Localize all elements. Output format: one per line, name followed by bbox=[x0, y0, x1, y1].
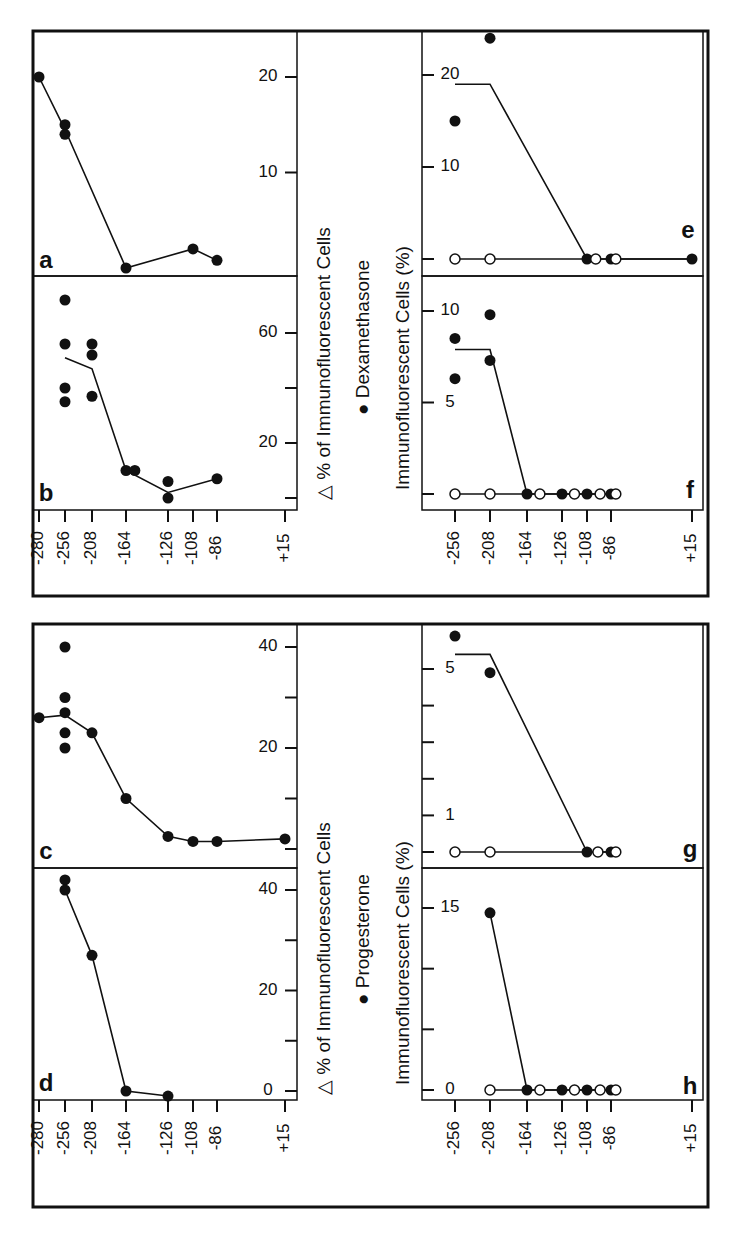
panel-h-box bbox=[422, 868, 703, 1100]
data-point-f bbox=[450, 333, 461, 344]
data-point-d bbox=[121, 1086, 132, 1097]
x-axis-left-top-label: +15 bbox=[274, 534, 293, 563]
x-axis-right-bottom-label: -208 bbox=[479, 1121, 498, 1155]
panel-label-h: h bbox=[683, 1072, 698, 1099]
x-axis-right-top-label: -256 bbox=[444, 531, 463, 565]
data-point-c bbox=[60, 642, 71, 653]
data-point-b bbox=[87, 339, 98, 350]
control-point-g bbox=[593, 847, 603, 857]
data-point-b bbox=[129, 465, 140, 476]
series-line-g bbox=[455, 654, 616, 852]
panel-label-d: d bbox=[39, 1069, 54, 1096]
series-line-e bbox=[455, 84, 692, 259]
x-axis-left-bottom-label: -256 bbox=[54, 1121, 73, 1155]
right-axis-title-bottom: Immunofluorescent Cells (%) bbox=[392, 841, 414, 1085]
x-axis-right-top-label: +15 bbox=[681, 534, 700, 563]
x-axis-right-bottom-label: -86 bbox=[600, 1126, 619, 1151]
figure-canvas: abcdefgh10202060204002040102051015015-28… bbox=[0, 0, 736, 1236]
data-point-c bbox=[163, 831, 174, 842]
control-point-h bbox=[535, 1085, 545, 1095]
data-point-h bbox=[582, 1085, 593, 1096]
panel-e-box bbox=[422, 31, 703, 276]
data-point-a bbox=[60, 119, 71, 130]
data-point-d bbox=[87, 950, 98, 961]
data-point-a bbox=[121, 263, 132, 274]
series-line-b bbox=[65, 358, 217, 493]
data-point-e bbox=[485, 33, 496, 44]
y-tick-label-f: 5 bbox=[445, 392, 454, 411]
left-axis-title-top: △ % of Immunofluorescent Cells bbox=[312, 227, 335, 500]
x-axis-left-bottom-label: -108 bbox=[182, 1121, 201, 1155]
data-point-a bbox=[212, 255, 223, 266]
x-axis-right-top-label: -86 bbox=[600, 536, 619, 561]
x-axis-left-top-label: -86 bbox=[206, 536, 225, 561]
panel-label-a: a bbox=[39, 246, 53, 273]
data-point-f bbox=[582, 489, 593, 500]
control-point-f bbox=[535, 489, 545, 499]
x-axis-left-bottom-label: -126 bbox=[157, 1121, 176, 1155]
panel-label-e: e bbox=[681, 216, 694, 243]
y-tick-label-b: 60 bbox=[259, 322, 278, 341]
x-axis-right-top-label: -126 bbox=[551, 531, 570, 565]
control-point-h bbox=[485, 1085, 495, 1095]
y-tick-label-h: 15 bbox=[441, 897, 460, 916]
control-point-e bbox=[485, 254, 495, 264]
y-tick-label-g: 5 bbox=[445, 658, 454, 677]
data-point-d bbox=[60, 874, 71, 885]
data-point-h bbox=[522, 1085, 533, 1096]
data-point-e bbox=[687, 254, 698, 265]
control-point-g bbox=[611, 847, 621, 857]
y-tick-label-a: 20 bbox=[259, 66, 278, 85]
data-point-g bbox=[450, 631, 461, 642]
x-axis-right-top-label: -208 bbox=[479, 531, 498, 565]
y-tick-label-a: 10 bbox=[259, 162, 278, 181]
data-point-c bbox=[121, 793, 132, 804]
x-axis-right-top-label: -108 bbox=[576, 531, 595, 565]
data-point-c bbox=[60, 727, 71, 738]
data-point-b bbox=[60, 339, 71, 350]
data-point-g bbox=[485, 667, 496, 678]
y-tick-label-c: 20 bbox=[259, 737, 278, 756]
y-tick-label-h: 0 bbox=[445, 1079, 454, 1098]
data-point-f bbox=[450, 373, 461, 384]
x-axis-left-top-label: -280 bbox=[28, 531, 47, 565]
panel-a-box bbox=[33, 31, 297, 276]
x-axis-left-bottom-label: -164 bbox=[115, 1121, 134, 1155]
data-point-f bbox=[522, 489, 533, 500]
legend-dexamethasone: ● Dexamethasone bbox=[352, 260, 374, 415]
data-point-h bbox=[485, 907, 496, 918]
data-point-d bbox=[163, 1091, 174, 1102]
data-point-c bbox=[60, 707, 71, 718]
x-axis-right-bottom-label: -164 bbox=[516, 1121, 535, 1155]
control-point-e bbox=[591, 254, 601, 264]
x-axis-left-bottom-label: +15 bbox=[274, 1124, 293, 1153]
data-point-f bbox=[557, 489, 568, 500]
y-tick-label-d: 20 bbox=[259, 980, 278, 999]
data-point-c bbox=[34, 712, 45, 723]
x-axis-right-bottom-label: -108 bbox=[576, 1121, 595, 1155]
control-point-h bbox=[611, 1085, 621, 1095]
control-point-e bbox=[450, 254, 460, 264]
panel-d-box bbox=[33, 868, 297, 1100]
control-point-f bbox=[570, 489, 580, 499]
series-line-c bbox=[39, 715, 285, 841]
panel-f-box bbox=[422, 276, 703, 510]
y-tick-label-d: 0 bbox=[263, 1080, 272, 1099]
data-point-c bbox=[60, 743, 71, 754]
x-axis-left-top-label: -164 bbox=[115, 531, 134, 565]
control-point-h bbox=[595, 1085, 605, 1095]
panel-g-box bbox=[422, 624, 703, 868]
x-axis-left-top-label: -126 bbox=[157, 531, 176, 565]
y-tick-label-f: 10 bbox=[441, 300, 460, 319]
x-axis-left-bottom-label: -208 bbox=[81, 1121, 100, 1155]
control-point-e bbox=[611, 254, 621, 264]
control-point-h bbox=[570, 1085, 580, 1095]
panel-label-b: b bbox=[39, 479, 54, 506]
control-point-g bbox=[485, 847, 495, 857]
control-point-f bbox=[485, 489, 495, 499]
data-point-c bbox=[60, 692, 71, 703]
data-point-g bbox=[582, 847, 593, 858]
control-point-f bbox=[450, 489, 460, 499]
data-point-d bbox=[60, 885, 71, 896]
series-line-h bbox=[490, 913, 616, 1090]
